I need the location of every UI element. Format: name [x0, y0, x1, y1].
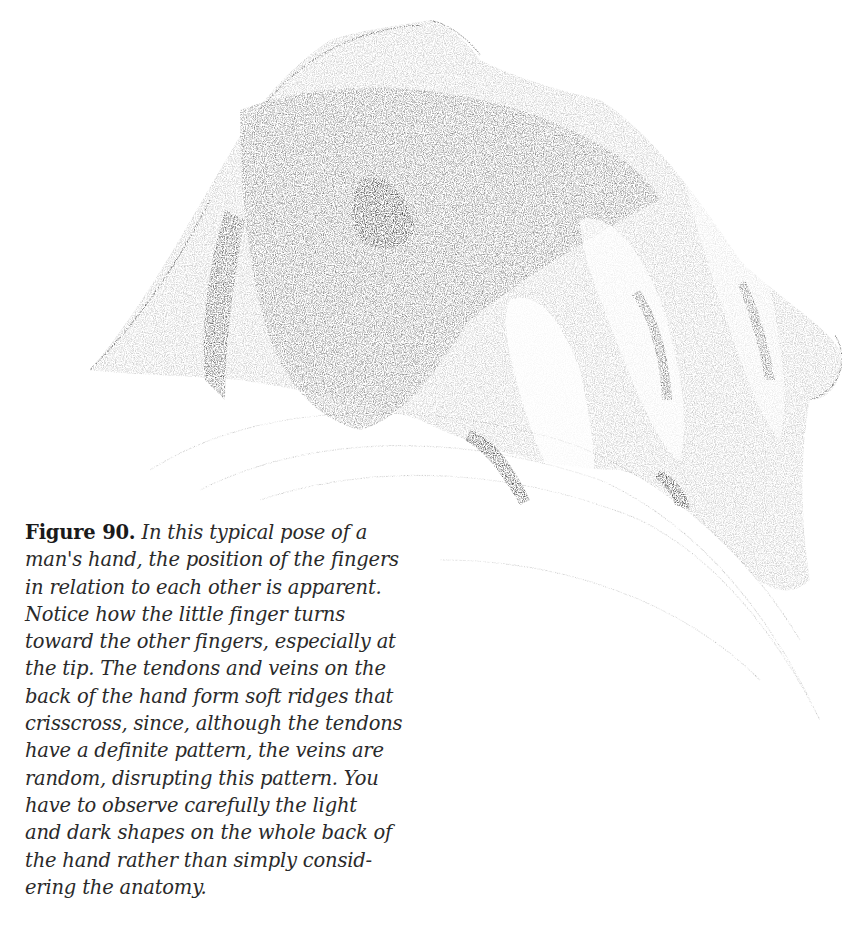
caption-line-9: have a definite pattern, the veins are	[25, 737, 445, 764]
caption-line-10: random, disrupting this pattern. You	[25, 765, 445, 792]
figure-caption: Figure 90. In this typical pose of a man…	[25, 519, 445, 901]
caption-line-13: the hand rather than simply consid-	[25, 847, 445, 874]
caption-line-1: Figure 90. In this typical pose of a	[25, 519, 445, 546]
caption-line-5: toward the other fingers, especially at	[25, 628, 445, 655]
hand-shading	[90, 20, 841, 590]
caption-line-14: ering the anatomy.	[25, 874, 445, 901]
caption-line-8: crisscross, since, although the tendons	[25, 710, 445, 737]
caption-line-7: back of the hand form soft ridges that	[25, 683, 445, 710]
caption-line-4: Notice how the little finger turns	[25, 601, 445, 628]
caption-line-11: have to observe carefully the light	[25, 792, 445, 819]
caption-line-6: the tip. The tendons and veins on the	[25, 655, 445, 682]
figure-label: Figure 90.	[25, 521, 135, 544]
caption-line-3: in relation to each other is apparent.	[25, 574, 445, 601]
caption-line-12: and dark shapes on the whole back of	[25, 819, 445, 846]
caption-line-2: man's hand, the position of the fingers	[25, 546, 445, 573]
